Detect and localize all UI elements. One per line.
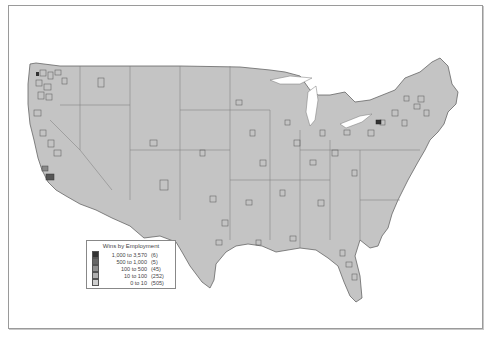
county-mid-ca (42, 166, 48, 171)
legend-item: 500 to 1,000 (5) (87, 258, 175, 265)
county-high-mi (376, 120, 381, 124)
legend-range: 0 to 10 (103, 280, 147, 286)
map-legend: Wins by Employment 1,000 to 3,570 (6) 50… (86, 240, 176, 289)
legend-title: Wins by Employment (87, 243, 175, 249)
county-high-ca (46, 174, 54, 180)
legend-count: (5) (151, 259, 171, 265)
legend-swatch (92, 279, 99, 286)
legend-item: 100 to 500 (45) (87, 265, 175, 272)
legend-range: 500 to 1,000 (103, 259, 147, 265)
legend-swatch (92, 265, 99, 272)
legend-item: 0 to 10 (505) (87, 279, 175, 286)
legend-count: (45) (151, 266, 171, 272)
legend-item: 10 to 100 (252) (87, 272, 175, 279)
legend-range: 1,000 to 3,570 (103, 252, 147, 258)
legend-count: (505) (151, 280, 171, 286)
legend-item: 1,000 to 3,570 (6) (87, 251, 175, 258)
legend-range: 100 to 500 (103, 266, 147, 272)
us-county-map (0, 0, 486, 338)
legend-range: 10 to 100 (103, 273, 147, 279)
legend-swatch (92, 272, 99, 279)
legend-swatch (92, 251, 99, 258)
legend-count: (252) (151, 273, 171, 279)
county-high-wa (36, 72, 39, 76)
legend-count: (6) (151, 252, 171, 258)
legend-swatch (92, 258, 99, 265)
